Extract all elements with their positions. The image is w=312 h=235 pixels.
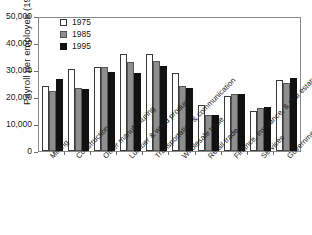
bar: [231, 94, 238, 151]
legend-swatch-1985: [60, 31, 67, 38]
y-tick-mark: [34, 125, 38, 126]
legend-item-1995: 1995: [60, 41, 91, 52]
legend-label-1995: 1995: [72, 42, 91, 51]
y-tick-label: 20,000: [6, 92, 32, 102]
y-tick-label: 50,000: [6, 11, 32, 21]
bar: [49, 91, 56, 151]
y-tick-mark: [34, 71, 38, 72]
legend-swatch-1995: [60, 43, 67, 50]
payroll-per-employee-bar-chart: Payroll per employee (1995 $) 010,00020,…: [0, 0, 312, 235]
y-tick-mark: [34, 17, 38, 18]
bar-group: [274, 18, 300, 151]
legend-label-1975: 1975: [72, 18, 91, 27]
bar: [160, 66, 167, 151]
bar: [42, 86, 49, 151]
bar: [68, 69, 75, 151]
bar: [108, 72, 115, 151]
x-axis-labels: MiningConstructionOther manufacturingLum…: [38, 152, 301, 234]
y-tick-label: 10,000: [6, 119, 32, 129]
legend-label-1985: 1985: [72, 30, 91, 39]
y-tick-mark: [34, 98, 38, 99]
legend-item-1975: 1975: [60, 17, 91, 28]
legend-item-1985: 1985: [60, 29, 91, 40]
bar: [75, 88, 82, 151]
y-tick-label: 0: [27, 146, 32, 156]
legend: 1975 1985 1995: [60, 17, 91, 53]
y-tick-label: 40,000: [6, 38, 32, 48]
legend-swatch-1975: [60, 19, 67, 26]
y-tick-mark: [34, 44, 38, 45]
y-tick-label: 30,000: [6, 65, 32, 75]
